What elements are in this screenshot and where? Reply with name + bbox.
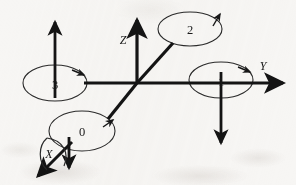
joint-3-label: 3 <box>52 78 58 92</box>
joint-1-label: 1 <box>218 75 224 89</box>
axis-x-label: X <box>44 147 53 161</box>
axis-y-label: Y <box>260 59 268 73</box>
joint-2-label: 2 <box>187 23 193 37</box>
labels-group: 0 1 2 3 X Y Z <box>44 23 267 161</box>
joint-2-rotation-arrowhead <box>213 14 220 26</box>
joint-0-rotation-arrowhead <box>103 120 113 127</box>
link-center-to-joint-0 <box>108 83 137 119</box>
axis-x-line <box>38 142 72 176</box>
joint-0-label: 0 <box>79 125 85 139</box>
axes-group <box>38 20 283 176</box>
link-center-to-joint-2 <box>137 43 173 83</box>
diagram-canvas: 0 1 2 3 X Y Z <box>0 0 296 185</box>
kinematics-diagram: 0 1 2 3 X Y Z <box>0 0 296 185</box>
axis-z-label: Z <box>120 33 127 47</box>
